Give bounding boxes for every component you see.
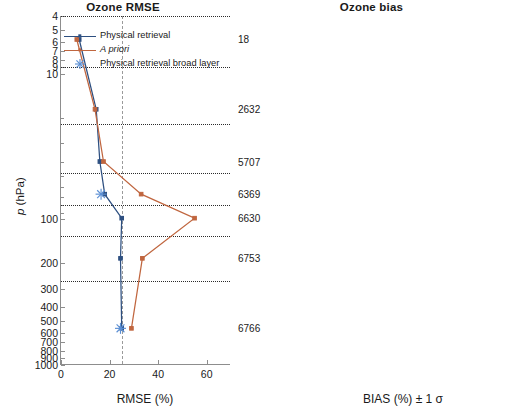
y-tick-label: 4 [52, 12, 58, 20]
y-tick-label: 300 [40, 285, 58, 293]
chart-title-rmse: Ozone RMSE [0, 1, 252, 13]
y-tick-label: 100 [40, 215, 58, 223]
y-tick-label: 1000 [35, 361, 58, 369]
y-tick-mark [61, 365, 65, 366]
layer-count-label: 18 [238, 34, 249, 45]
chart-title-bias: Ozone bias [242, 1, 501, 13]
y-tick-label: 10 [46, 70, 58, 78]
legend-item-1[interactable]: A priori [64, 43, 219, 57]
x-tick-label: 20 [104, 368, 116, 380]
legend-rmse: Physical retrievalA prioriPhysical retri… [64, 29, 219, 71]
layer-count-label: 2632 [238, 104, 260, 115]
legend-item-2[interactable]: Physical retrieval broad layer [64, 57, 219, 71]
legend-label: A priori [100, 43, 129, 57]
layer-count-label: 6766 [238, 323, 260, 334]
panel-ozone-bias: Ozone bias 45678910100200300400500600700… [258, 0, 517, 415]
legend-label: Physical retrieval [100, 29, 170, 43]
y-axis-label-left: p (hPa) [14, 177, 26, 215]
x-axis-label-rmse: RMSE (%) [117, 392, 174, 406]
legend-label: Physical retrieval broad layer [100, 57, 219, 71]
y-tick-label: 500 [40, 317, 58, 325]
line-marker-icon [64, 31, 96, 41]
x-tick-label: 60 [201, 368, 213, 380]
x-tick-label: 40 [152, 368, 164, 380]
y-tick-label: 400 [40, 303, 58, 311]
layer-count-label: 6753 [238, 253, 260, 264]
layer-count-label: 6630 [238, 213, 260, 224]
x-axis-label-bias: BIAS (%) ± 1 σ [363, 392, 443, 406]
y-tick-label: 5 [52, 26, 58, 34]
layer-count-label: 5707 [238, 156, 260, 167]
x-tick-label: 0 [58, 368, 64, 380]
panel-ozone-rmse: Ozone RMSE 45678910100200300400500600700… [0, 0, 258, 415]
y-tick-label: 200 [40, 259, 58, 267]
legend-item-0[interactable]: Physical retrieval [64, 29, 219, 43]
star-marker-icon [64, 59, 96, 69]
layer-count-label: 6369 [238, 189, 260, 200]
line-marker-icon [64, 45, 96, 55]
